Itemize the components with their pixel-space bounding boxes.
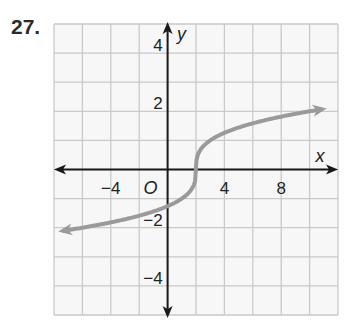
x-tick-label: 4 xyxy=(220,179,229,198)
y-tick-label: −4 xyxy=(143,269,162,288)
x-axis-label: x xyxy=(315,146,326,166)
origin-label: O xyxy=(144,178,158,198)
y-tick-label: −2 xyxy=(143,211,162,230)
y-tick-label: 2 xyxy=(153,94,162,113)
graph: −44842−2−4Oxy xyxy=(0,0,349,326)
x-tick-label: 8 xyxy=(276,179,285,198)
y-tick-label: 4 xyxy=(153,36,162,55)
y-axis-label: y xyxy=(175,24,187,44)
x-tick-label: −4 xyxy=(101,179,120,198)
